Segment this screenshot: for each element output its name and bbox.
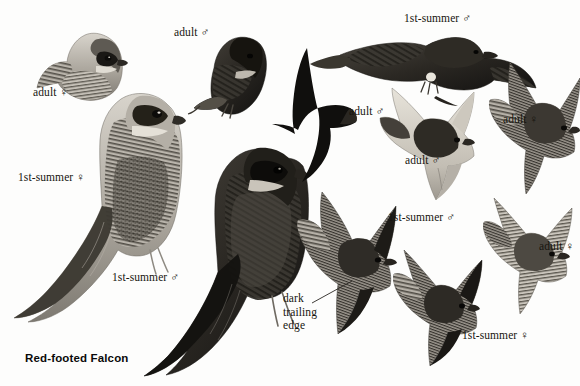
- annotation-line-2: trailing: [283, 306, 343, 320]
- falcon-plate: adult ♀ adult ♂ 1st-summer ♀ 1st-summer …: [0, 0, 580, 386]
- label-first-summer-male-perched: 1st-summer ♂: [112, 271, 179, 284]
- figure-adult-male-perched: [188, 37, 266, 118]
- label-adult-male-perched: adult ♂: [174, 26, 209, 39]
- annotation-dark-trailing-edge: dark trailing edge: [283, 292, 343, 333]
- label-first-summer-male-lower: 1st-summer ♂: [388, 211, 455, 224]
- label-first-summer-male-top: 1st-summer ♂: [404, 12, 471, 25]
- page-title: Red-footed Falcon: [25, 352, 129, 364]
- label-adult-female-upper-right: adult ♀: [503, 113, 538, 126]
- figure-first-summer-female-perched: [14, 93, 186, 322]
- label-adult-female-perched: adult ♀: [33, 86, 68, 99]
- label-first-summer-female-lower: 1st-summer ♀: [462, 329, 529, 342]
- figure-first-summer-male-top-prey: [310, 37, 536, 106]
- figure-adult-female-upper-right: [489, 62, 580, 194]
- label-adult-male-dark-flight: adult ♂: [349, 105, 384, 118]
- annotation-line-1: dark: [283, 292, 343, 306]
- annotation-line-3: edge: [283, 319, 343, 333]
- figure-first-summer-female-lower: [393, 250, 482, 366]
- label-adult-male-underwing: adult ♂: [405, 154, 440, 167]
- figure-adult-male-underwing: [380, 88, 475, 200]
- figure-adult-female-lower-right: [483, 198, 572, 314]
- label-adult-female-lower-right: adult ♀: [539, 240, 574, 253]
- label-first-summer-female-perched: 1st-summer ♀: [18, 171, 85, 184]
